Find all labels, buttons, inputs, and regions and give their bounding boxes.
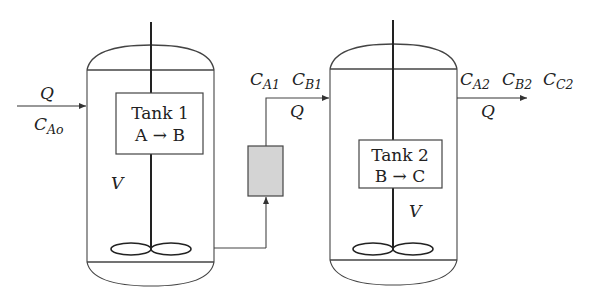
tank-2-reaction: B → C: [375, 166, 426, 186]
tank-1-volume-label: V: [111, 173, 125, 193]
tank-1-impeller-right: [151, 243, 191, 255]
separator-unit: [248, 146, 283, 196]
tank-2-volume-label: V: [409, 201, 423, 221]
outlet-conc-a2: CA2: [460, 69, 490, 92]
tank-1-impeller-left: [111, 243, 151, 255]
tank-2-bottom-cap: [330, 260, 457, 285]
intermediate-conc-b1: CB1: [292, 69, 322, 92]
tank-2-impeller-right: [393, 243, 433, 255]
tank-2-name: Tank 2: [371, 145, 429, 165]
tank-1-name: Tank 1: [131, 103, 189, 123]
inlet-conc-label: CAo: [34, 114, 64, 137]
inlet-flow-label: Q: [40, 83, 54, 103]
tank-1: [87, 22, 214, 286]
outlet-flow-label: Q: [481, 101, 495, 121]
intermediate-conc-a1: CA1: [250, 69, 280, 92]
tank-1-reaction: A → B: [134, 125, 185, 145]
tank-1-bottom-cap: [87, 262, 214, 286]
tank-2-impeller-left: [353, 243, 393, 255]
outlet-conc-b2: CB2: [502, 69, 532, 92]
intermediate-flow-label: Q: [290, 101, 304, 121]
reactor-diagram: Tank 1 A → B V Tank 2 B → C V Q CAo CA1 …: [0, 0, 589, 306]
outlet-conc-c2: CC2: [543, 69, 574, 92]
